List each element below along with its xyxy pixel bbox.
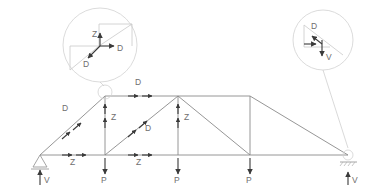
detail-callout-left	[63, 8, 137, 99]
label-load-1: P	[101, 176, 107, 185]
support-reactions	[40, 170, 348, 185]
left-pin-support	[31, 155, 49, 169]
right-roller-support	[340, 150, 357, 166]
truss-diagram-canvas: D D Z D Z Z Z P P P V V Z D D D V	[0, 0, 366, 194]
label-diagonal-left: D	[62, 104, 68, 113]
applied-loads	[105, 158, 250, 174]
truss-members	[40, 96, 348, 155]
label-bottom-mid: Z	[136, 158, 141, 167]
label-load-3: P	[246, 176, 252, 185]
detail-left-label-z: Z	[92, 30, 97, 39]
detail-right-label-d: D	[311, 22, 317, 31]
diagonal-web-2	[178, 96, 250, 155]
force-arrows-diagonal-left	[62, 123, 81, 139]
label-reaction-right: V	[352, 176, 358, 185]
detail-left-label-d-right: D	[117, 44, 123, 53]
detail-right-label-v: V	[326, 53, 332, 62]
label-top-chord: D	[135, 78, 141, 87]
end-post-right	[250, 96, 348, 155]
end-post-left	[40, 96, 105, 155]
label-diagonal-mid: D	[145, 124, 151, 133]
label-vertical-mid: Z	[184, 113, 189, 122]
label-bottom-left: Z	[70, 158, 75, 167]
label-load-2: P	[174, 176, 180, 185]
label-reaction-left: V	[44, 176, 50, 185]
label-vertical-left: Z	[111, 113, 116, 122]
detail-left-label-d-lower: D	[83, 60, 89, 69]
